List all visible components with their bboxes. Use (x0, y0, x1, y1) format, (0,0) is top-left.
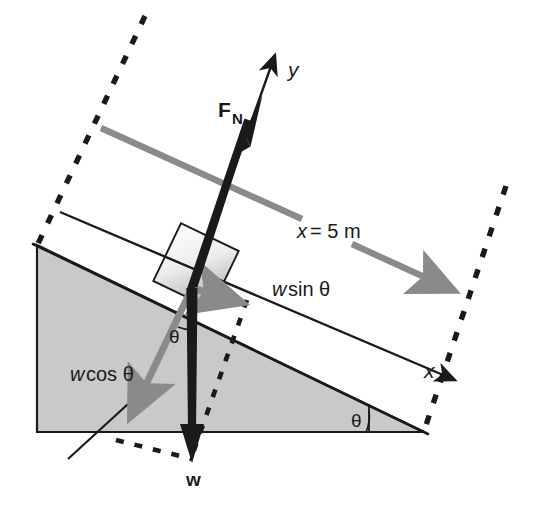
weight-label: w (185, 469, 201, 490)
dashed-left-boundary (36, 16, 145, 248)
distance-value: = 5 m (310, 220, 361, 242)
weight-perp-cos: cos θ (86, 363, 134, 385)
angle-label-at-base: θ (351, 410, 362, 431)
distance-arrow-lower (352, 244, 455, 291)
weight-perpendicular-label: w cos θ (70, 363, 134, 385)
dashed-right-boundary (423, 186, 506, 434)
weight-parallel-sin: sin θ (288, 278, 330, 300)
normal-force-subscript: N (232, 110, 243, 127)
physics-diagram-inclined-plane: y x F N w w sin θ w cos θ x = 5 m θ θ (0, 0, 558, 505)
weight-parallel-label: w sin θ (272, 278, 330, 300)
normal-force-label: F N (218, 98, 243, 127)
dashed-bottom-cross (116, 440, 192, 459)
distance-label: x = 5 m (296, 220, 361, 242)
y-axis-label: y (286, 58, 300, 81)
angle-label-at-block: θ (169, 326, 180, 347)
weight-perp-w: w (70, 363, 86, 385)
normal-force-symbol: F (218, 98, 231, 121)
x-axis-label: x (423, 359, 436, 382)
weight-parallel-w: w (272, 278, 288, 300)
distance-x: x (296, 220, 308, 242)
distance-arrow-upper (101, 128, 302, 219)
diagram-canvas: y x F N w w sin θ w cos θ x = 5 m θ θ (0, 0, 558, 505)
